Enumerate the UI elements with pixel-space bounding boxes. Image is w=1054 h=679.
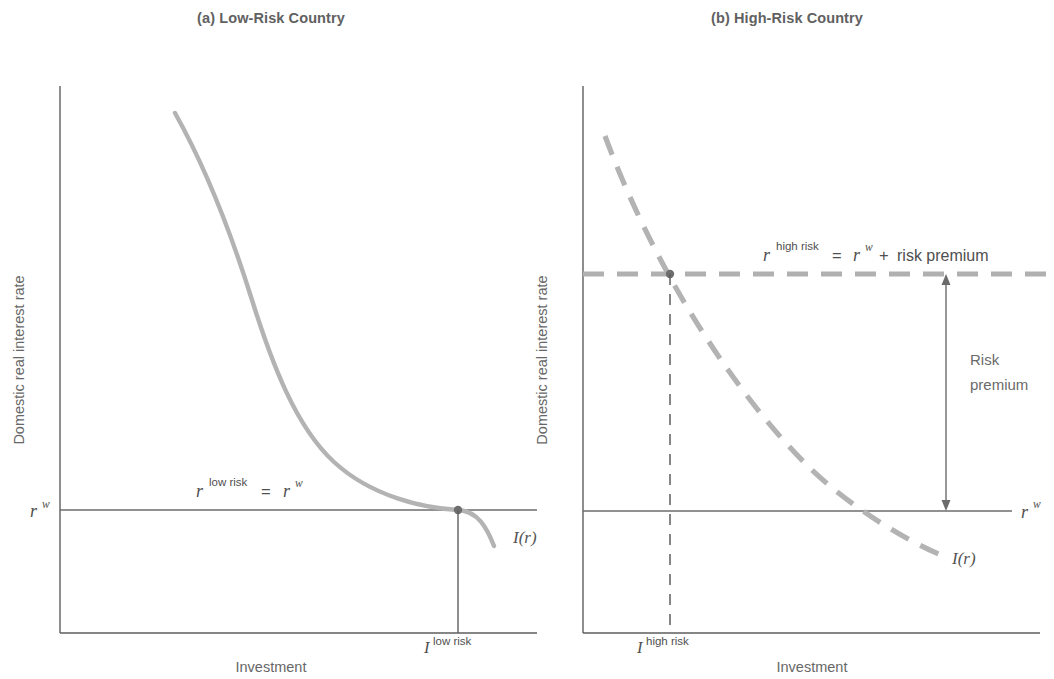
x-axis-label-low-risk: Investment	[236, 659, 307, 675]
risk-premium-arrow	[942, 274, 951, 511]
rate-label-sup-high-risk: high risk	[776, 240, 819, 252]
x-eq-var-high-risk: I	[636, 638, 644, 657]
panel-high-risk: (b) High-Risk Country r high risk = r w	[534, 10, 1054, 675]
rate-label-operator-high-risk: =	[832, 246, 842, 264]
rate-label-sup2-high-risk: w	[865, 241, 873, 253]
figure-container: (a) Low-Risk Country r w r low risk	[0, 0, 1054, 679]
risk-premium-label-line1: Risk	[970, 351, 1000, 368]
y-axis-label-high-risk: Domestic real interest rate	[534, 275, 550, 444]
x-equilibrium-label-high-risk: I high risk	[636, 635, 689, 657]
rate-label-var-high-risk: r	[763, 245, 771, 265]
panel-low-risk: (a) Low-Risk Country r w r low risk	[11, 10, 537, 675]
rate-line-label-low-risk: r low risk = r w	[196, 476, 303, 501]
risk-premium-arrow-head-bottom	[942, 500, 951, 511]
investment-demand-curve-high-risk	[605, 136, 943, 556]
rate-label-operator-low-risk: =	[261, 482, 271, 500]
rw-end-var-high-risk: r	[1021, 502, 1029, 522]
rate-label-plus-high-risk: +	[879, 246, 889, 264]
panel-title-low-risk: (a) Low-Risk Country	[197, 10, 345, 26]
economics-figure-canvas: (a) Low-Risk Country r w r low risk	[0, 0, 1054, 679]
risk-premium-label-line2: premium	[970, 376, 1028, 393]
rate-label-var2-low-risk: r	[283, 481, 291, 501]
curve-label-low-risk: I(r)	[512, 528, 537, 547]
rate-line-label-high-risk: r high risk = r w + risk premium	[763, 240, 989, 265]
rate-label-sup-low-risk: low risk	[209, 476, 248, 488]
rate-label-var2-high-risk: r	[853, 245, 861, 265]
rate-label-var-low-risk: r	[196, 481, 204, 501]
y-tick-sup-low-risk: w	[42, 498, 50, 510]
x-equilibrium-label-low-risk: I low risk	[423, 635, 472, 657]
rate-label-sup2-low-risk: w	[295, 477, 303, 489]
y-axis-label-low-risk: Domestic real interest rate	[11, 275, 27, 444]
curve-label-high-risk: I(r)	[951, 549, 976, 568]
panel-title-high-risk: (b) High-Risk Country	[711, 10, 863, 26]
y-tick-var-low-risk: r	[30, 501, 38, 521]
rw-end-sup-high-risk: w	[1033, 498, 1041, 510]
x-axis-label-high-risk: Investment	[777, 659, 848, 675]
rate-axis-end-label-high-risk: r w	[1021, 498, 1041, 522]
y-axis-rate-tick-low-risk: r w	[30, 498, 50, 521]
rate-label-tail-high-risk: risk premium	[897, 247, 989, 264]
x-eq-var-low-risk: I	[423, 638, 431, 657]
x-eq-sup-high-risk: high risk	[646, 635, 689, 647]
x-eq-sup-low-risk: low risk	[433, 635, 472, 647]
